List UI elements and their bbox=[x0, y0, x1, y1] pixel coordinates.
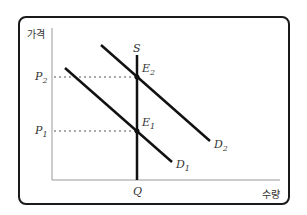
y-axis-label: 가격 bbox=[27, 26, 45, 41]
x-axis-label: 수량 bbox=[262, 186, 280, 201]
supply-label: S bbox=[133, 42, 141, 55]
equilibrium-e2-point bbox=[135, 75, 140, 80]
supply-demand-diagram bbox=[0, 0, 307, 215]
demand-d2-label: D2 bbox=[214, 138, 228, 153]
demand-curve-d2 bbox=[101, 45, 210, 141]
demand-d1-label: D1 bbox=[176, 158, 190, 173]
equilibrium-e1-point bbox=[135, 129, 140, 134]
price-p1-label: P1 bbox=[35, 124, 48, 139]
demand-curve-d1 bbox=[65, 68, 172, 162]
quantity-q-label: Q bbox=[133, 185, 142, 198]
equilibrium-e2-label: E2 bbox=[142, 62, 155, 77]
equilibrium-e1-label: E1 bbox=[142, 116, 155, 131]
price-p2-label: P2 bbox=[35, 70, 48, 85]
